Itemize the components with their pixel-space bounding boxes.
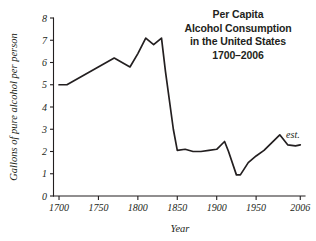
data-series-line: [59, 38, 300, 175]
x-tick-label: 1950: [246, 202, 266, 213]
x-axis-tick-labels: 1700175018001850190019502006: [49, 202, 310, 213]
x-axis-title: Year: [171, 223, 191, 234]
annotation-est-label: est.: [286, 129, 300, 140]
x-tick-label: 1850: [167, 202, 187, 213]
y-tick-label: 5: [42, 79, 47, 90]
y-tick-label: 4: [42, 102, 47, 113]
x-tick-label: 1800: [128, 202, 148, 213]
y-tick-label: 8: [42, 13, 47, 24]
y-tick-label: 0: [42, 191, 47, 202]
x-axis: 1700175018001850190019502006: [49, 196, 310, 213]
y-tick-label: 7: [42, 35, 48, 46]
x-tick-label: 2006: [290, 202, 310, 213]
y-tick-label: 1: [42, 168, 47, 179]
x-axis-ticks: [59, 196, 300, 200]
x-tick-label: 1750: [88, 202, 108, 213]
x-tick-label: 1900: [207, 202, 227, 213]
y-axis: 012345678: [41, 13, 54, 202]
y-tick-label: 3: [41, 124, 47, 135]
y-tick-label: 2: [42, 146, 47, 157]
y-axis-title: Gallons of pure alcohol per person: [8, 33, 19, 180]
y-axis-tick-labels: 012345678: [41, 13, 48, 202]
line-chart-plot: 012345678 1700175018001850190019502006 e…: [0, 0, 316, 241]
y-tick-label: 6: [42, 57, 47, 68]
chart-annotations: est.: [286, 129, 300, 140]
chart-figure: Per Capita Alcohol Consumption in the Un…: [0, 0, 316, 241]
x-tick-label: 1700: [49, 202, 69, 213]
